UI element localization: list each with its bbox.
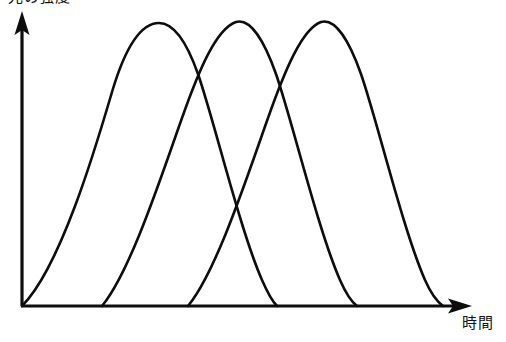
- x-axis-label: 時間: [462, 316, 493, 332]
- curve-3: [188, 22, 443, 306]
- curve-1: [22, 23, 277, 306]
- y-axis-label: 光の強度: [8, 0, 70, 6]
- chart-figure: 光の強度 時間: [0, 0, 506, 342]
- curve-2: [102, 22, 357, 306]
- plot-area: [0, 0, 506, 342]
- x-axis: [21, 299, 472, 314]
- y-axis: [15, 11, 30, 306]
